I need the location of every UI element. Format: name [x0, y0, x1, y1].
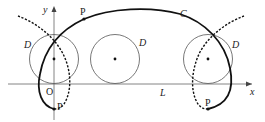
origin-label: O: [46, 86, 53, 97]
x-axis-label: x: [249, 86, 255, 97]
circle-label-right: D: [231, 39, 240, 50]
y-axis: [52, 6, 57, 120]
y-axis-arrow-icon: [52, 6, 57, 12]
curve-label: C: [180, 8, 187, 19]
point-label-bottom-left: P: [57, 101, 63, 112]
y-axis-label: y: [42, 4, 48, 15]
line-label: L: [159, 87, 166, 98]
circle-label-left: D: [23, 39, 32, 50]
point-p-bottom-left: [52, 107, 55, 110]
curve-c: [39, 9, 232, 109]
dashed-curve-right: [193, 16, 244, 109]
circle-label-middle: D: [138, 37, 147, 48]
point-p-top: [82, 17, 85, 20]
center-right: [207, 58, 210, 61]
point-label-bottom-right: P: [205, 97, 211, 108]
center-left: [53, 58, 56, 61]
point-label-top: P: [80, 6, 86, 17]
center-middle: [114, 58, 117, 61]
cycloid-diagram: y x O L C D D D P P P: [0, 0, 265, 122]
